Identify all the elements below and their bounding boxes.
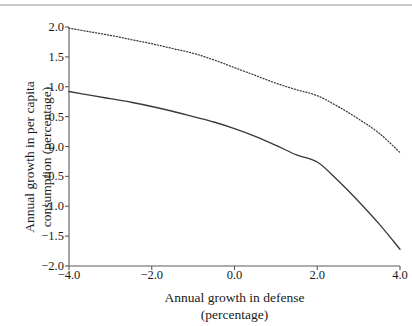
y-tick-label: 2.0 xyxy=(30,21,64,33)
x-axis-title-line1: Annual growth in defense xyxy=(165,290,305,305)
x-axis-title-line2: (percentage) xyxy=(69,306,400,323)
x-tick-label: 2.0 xyxy=(309,269,325,282)
x-tick-label: 0.0 xyxy=(227,269,243,282)
x-axis-title: Annual growth in defense (percentage) xyxy=(69,289,400,323)
chart-figure: 2.01.51.00.50.0−0.5−1.0−1.5−2.0 −4.0−2.0… xyxy=(0,0,412,326)
x-tick-label: −4.0 xyxy=(58,269,81,282)
series-upper-dotted-curve xyxy=(69,28,400,152)
x-axis-tick-labels: −4.0−2.00.02.04.0 xyxy=(0,269,412,287)
x-tick-label: 4.0 xyxy=(392,269,408,282)
y-axis-title: Annual growth in per capita consumption … xyxy=(21,33,55,281)
x-tick-label: −2.0 xyxy=(140,269,163,282)
plot-series xyxy=(69,28,400,249)
y-axis-title-line1: Annual growth in per capita xyxy=(22,81,37,232)
y-axis-title-line2: consumption (percentage) xyxy=(38,33,55,281)
series-lower-solid-curve xyxy=(69,92,400,250)
plot-axes xyxy=(65,27,400,270)
